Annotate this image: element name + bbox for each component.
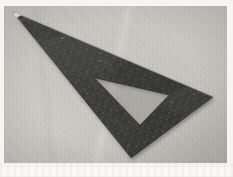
- triangle-ruler-graphic: [4, 6, 227, 163]
- bottom-margin-texture: [0, 163, 233, 177]
- photo-bottom-margin: [0, 163, 233, 177]
- photograph: [4, 6, 227, 163]
- photo-frame: Dark speckled stone set-square (right-tr…: [0, 0, 233, 177]
